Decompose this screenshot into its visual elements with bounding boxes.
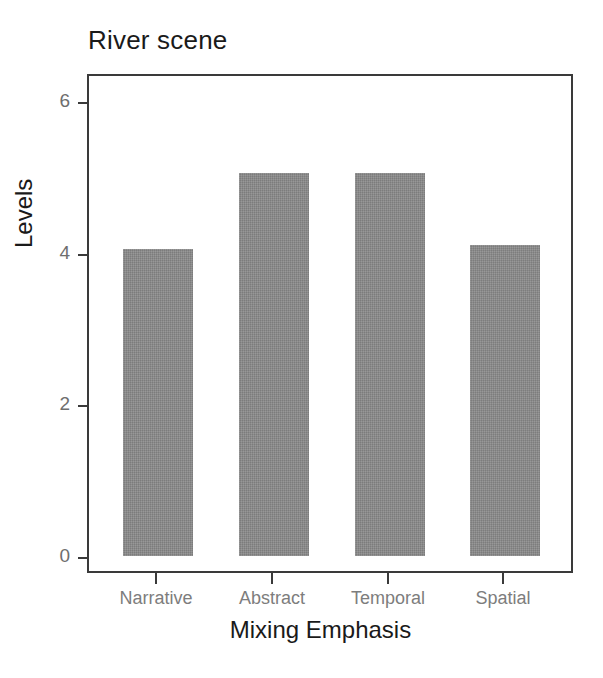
y-tick-mark-4 [78,254,87,256]
plot-frame [87,74,573,573]
x-axis-label: Mixing Emphasis [0,616,603,644]
y-tick-mark-2 [78,405,87,407]
x-tick-mark-narrative [155,573,157,584]
x-tick-label-abstract: Abstract [239,588,305,609]
bar-abstract [239,173,309,556]
x-tick-mark-abstract [271,573,273,584]
x-tick-label-narrative: Narrative [119,588,192,609]
bar-spatial [470,245,540,556]
y-axis-label: Levels [10,179,38,248]
x-tick-mark-spatial [502,573,504,584]
chart-title: River scene [88,25,227,56]
chart-figure: River scene Levels 0246 NarrativeAbstrac… [0,0,603,678]
bar-temporal [355,173,425,556]
y-tick-mark-6 [78,102,87,104]
y-tick-label-2: 2 [59,393,70,415]
y-tick-mark-0 [78,557,87,559]
x-tick-label-temporal: Temporal [351,588,425,609]
x-tick-label-spatial: Spatial [475,588,530,609]
x-axis-label-text: Mixing Emphasis [230,616,411,644]
bar-narrative [123,249,193,556]
plot-area [89,76,571,571]
y-tick-label-6: 6 [59,90,70,112]
x-tick-mark-temporal [387,573,389,584]
y-tick-label-0: 0 [59,545,70,567]
y-tick-label-4: 4 [59,242,70,264]
